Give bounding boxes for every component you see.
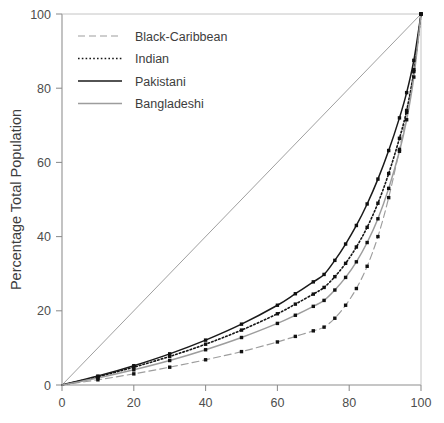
data-point-marker: [312, 329, 315, 332]
data-point-marker: [355, 287, 358, 290]
data-point-marker: [344, 242, 347, 245]
y-axis-title: Percentage Total Population: [8, 109, 24, 290]
data-point-marker: [412, 75, 415, 78]
data-point-marker: [132, 368, 135, 371]
data-point-marker: [276, 304, 279, 307]
data-point-marker: [365, 226, 368, 229]
x-tick-label: 40: [199, 396, 213, 410]
legend: Black-CaribbeanIndianPakistaniBangladesh…: [78, 30, 227, 112]
data-point-marker: [387, 149, 390, 152]
y-tick-label: 40: [37, 230, 51, 244]
lorenz-curve-chart: 020406080100020406080100 Black-Caribbean…: [0, 0, 444, 423]
data-point-markers: [96, 12, 423, 381]
x-tick-label: 60: [270, 396, 284, 410]
data-point-marker: [405, 109, 408, 112]
data-point-marker: [204, 358, 207, 361]
data-point-marker: [294, 302, 297, 305]
data-point-marker: [333, 288, 336, 291]
data-point-marker: [240, 350, 243, 353]
data-point-marker: [240, 328, 243, 331]
y-tick-label: 80: [37, 82, 51, 96]
data-point-marker: [322, 325, 325, 328]
data-point-marker: [405, 118, 408, 121]
data-point-marker: [376, 217, 379, 220]
data-point-marker: [168, 359, 171, 362]
x-tick-label: 80: [342, 396, 356, 410]
data-point-marker: [322, 299, 325, 302]
data-point-marker: [365, 202, 368, 205]
x-tick-label: 100: [411, 396, 432, 410]
data-point-marker: [333, 259, 336, 262]
data-point-marker: [96, 376, 99, 379]
data-point-marker: [412, 70, 415, 73]
data-point-marker: [276, 340, 279, 343]
data-point-marker: [398, 137, 401, 140]
data-point-marker: [240, 336, 243, 339]
data-point-marker: [312, 280, 315, 283]
x-tick-label: 0: [59, 396, 66, 410]
data-point-marker: [132, 364, 135, 367]
data-point-marker: [398, 150, 401, 153]
data-point-marker: [344, 304, 347, 307]
data-point-marker: [276, 322, 279, 325]
data-point-marker: [398, 116, 401, 119]
data-point-marker: [405, 91, 408, 94]
data-point-marker: [240, 322, 243, 325]
data-point-marker: [294, 292, 297, 295]
y-tick-label: 20: [37, 304, 51, 318]
data-point-marker: [355, 260, 358, 263]
data-point-marker: [322, 286, 325, 289]
data-point-marker: [355, 245, 358, 248]
data-point-marker: [204, 348, 207, 351]
data-point-marker: [168, 352, 171, 355]
y-tick-label: 0: [44, 379, 51, 393]
data-point-marker: [412, 59, 415, 62]
data-point-marker: [344, 276, 347, 279]
axis-tick-labels: 020406080100020406080100: [30, 8, 431, 411]
data-point-marker: [376, 202, 379, 205]
data-point-marker: [419, 12, 422, 15]
legend-label-pakistani: Pakistani: [135, 75, 186, 89]
data-point-marker: [312, 292, 315, 295]
data-point-marker: [294, 314, 297, 317]
data-point-marker: [204, 338, 207, 341]
data-point-marker: [387, 196, 390, 199]
data-point-marker: [344, 262, 347, 265]
data-point-marker: [322, 273, 325, 276]
data-point-marker: [365, 241, 368, 244]
data-point-marker: [294, 335, 297, 338]
data-point-marker: [333, 275, 336, 278]
legend-label-black-caribbean: Black-Caribbean: [135, 30, 227, 44]
data-point-marker: [333, 317, 336, 320]
data-point-marker: [387, 187, 390, 190]
y-tick-label: 100: [30, 8, 51, 22]
x-tick-label: 20: [127, 396, 141, 410]
data-point-marker: [132, 372, 135, 375]
data-point-marker: [355, 224, 358, 227]
legend-label-indian: Indian: [135, 52, 169, 66]
legend-label-bangladeshi: Bangladeshi: [135, 97, 204, 111]
data-point-marker: [387, 172, 390, 175]
data-point-marker: [312, 305, 315, 308]
data-point-marker: [276, 312, 279, 315]
data-point-marker: [204, 342, 207, 345]
data-point-marker: [376, 177, 379, 180]
y-tick-label: 60: [37, 156, 51, 170]
data-point-marker: [376, 235, 379, 238]
data-point-marker: [168, 365, 171, 368]
data-point-marker: [365, 265, 368, 268]
chart-canvas: 020406080100020406080100 Black-Caribbean…: [0, 0, 444, 423]
